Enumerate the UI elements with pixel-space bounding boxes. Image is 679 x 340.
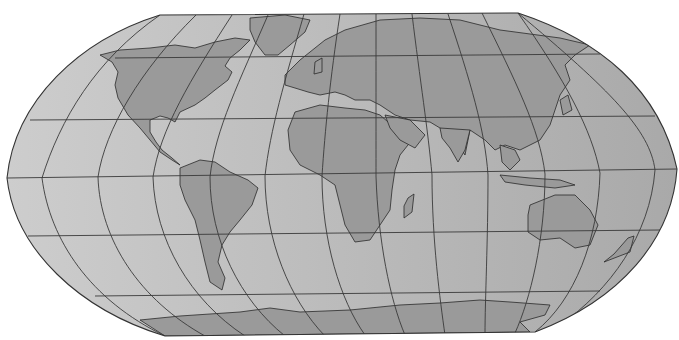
world-map-canvas [0,0,679,340]
world-map [0,0,679,340]
